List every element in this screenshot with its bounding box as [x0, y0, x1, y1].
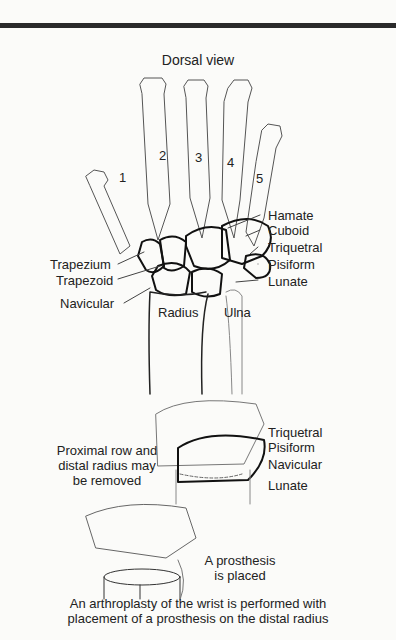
label-navicular: Navicular: [60, 296, 114, 311]
step3-note-line-2: is placed: [195, 568, 285, 583]
caption-line-2: placement of a prosthesis on the distal …: [0, 611, 396, 626]
step2-note-line-1: Proximal row and: [44, 443, 170, 458]
step3-drawing: [86, 504, 196, 600]
step2-note-line-2: distal radius may: [44, 458, 170, 473]
label-triquetral: Triquetral: [268, 240, 322, 255]
label-pisiform: Pisiform: [268, 257, 315, 272]
step2-drawing: [156, 401, 265, 504]
figure-caption: An arthroplasty of the wrist is performe…: [0, 596, 396, 626]
metacarpal-number-5: 5: [256, 171, 263, 186]
step2-label-lunate: Lunate: [268, 478, 308, 493]
metacarpal-bones: [86, 78, 282, 254]
metacarpal-number-4: 4: [227, 155, 234, 170]
label-radius: Radius: [158, 305, 198, 320]
label-hamate: Hamate: [268, 208, 314, 223]
metacarpal-number-2: 2: [159, 148, 166, 163]
label-trapezium: Trapezium: [50, 257, 111, 272]
label-ulna: Ulna: [224, 305, 251, 320]
step2-note: Proximal row and distal radius may be re…: [44, 443, 170, 488]
step2-label-triquetral: Triquetral: [268, 425, 322, 440]
step2-note-line-3: be removed: [44, 473, 170, 488]
step3-note-line-1: A prosthesis: [195, 553, 285, 568]
caption-line-1: An arthroplasty of the wrist is performe…: [0, 596, 396, 611]
wrist-anatomy-illustration: [0, 0, 396, 640]
label-cuboid: Cuboid: [268, 223, 309, 238]
metacarpal-number-3: 3: [195, 150, 202, 165]
label-lunate: Lunate: [268, 274, 308, 289]
label-trapezoid: Trapezoid: [56, 273, 113, 288]
step3-note: A prosthesis is placed: [195, 553, 285, 583]
step2-label-pisiform: Pisiform: [268, 440, 315, 455]
step2-label-navicular: Navicular: [268, 457, 322, 472]
metacarpal-number-1: 1: [119, 170, 126, 185]
carpal-bones: [138, 219, 271, 297]
